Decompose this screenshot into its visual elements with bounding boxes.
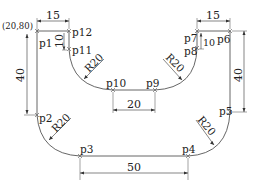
origin-coordinate-label: (20,80) <box>2 21 33 31</box>
dim-label-left-height: 40 <box>14 68 27 82</box>
dim-label-top-right: 15 <box>206 9 220 22</box>
radius-outer-left: R20 <box>49 111 73 140</box>
radius-label-outer-right: R20 <box>195 114 218 138</box>
radius-outer-right: R20 <box>195 114 218 145</box>
point-label-p1: p1 <box>39 37 52 49</box>
dim-right-notch: 10 <box>199 33 215 49</box>
point-label-p4: p4 <box>182 143 196 155</box>
dim-label-inner-bottom: 20 <box>127 98 141 111</box>
point-label-p3: p3 <box>80 143 93 155</box>
dim-right-height: 40 <box>232 31 247 112</box>
dim-label-right-notch: 10 <box>203 37 215 48</box>
dim-top-left: 15 <box>37 9 69 31</box>
point-label-p11: p11 <box>72 44 92 56</box>
point-label-p10: p10 <box>106 77 126 89</box>
dim-label-top-left: 15 <box>46 9 60 22</box>
point-label-p5: p5 <box>219 105 232 117</box>
dim-label-right-height: 40 <box>232 68 245 82</box>
point-label-p6: p6 <box>217 33 231 45</box>
point-label-p12: p12 <box>72 26 92 38</box>
dim-inner-bottom: 20 <box>113 92 155 113</box>
point-label-p7: p7 <box>184 32 197 44</box>
cad-drawing: 15 15 10 10 40 40 <box>0 0 256 190</box>
dim-left-height: 40 <box>14 34 36 115</box>
point-label-p9: p9 <box>146 77 159 89</box>
point-label-p2: p2 <box>39 112 52 124</box>
dim-label-left-notch: 10 <box>53 34 66 48</box>
dim-label-bottom: 50 <box>127 161 141 174</box>
dim-bottom: 50 <box>80 158 188 180</box>
dim-left-notch: 10 <box>53 33 67 50</box>
radius-label-outer-left: R20 <box>49 111 73 135</box>
dim-top-right: 15 <box>197 9 230 29</box>
point-label-p8: p8 <box>184 45 197 57</box>
